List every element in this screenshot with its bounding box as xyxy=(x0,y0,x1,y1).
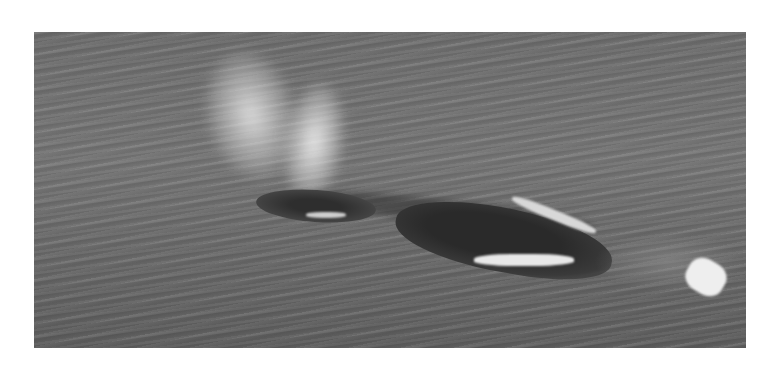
splash xyxy=(306,212,346,218)
whale-photo: Aerial grayscale photograph of a whale s… xyxy=(34,32,746,348)
splash xyxy=(474,254,574,266)
whale-head xyxy=(255,186,377,226)
whale-body xyxy=(390,189,618,290)
